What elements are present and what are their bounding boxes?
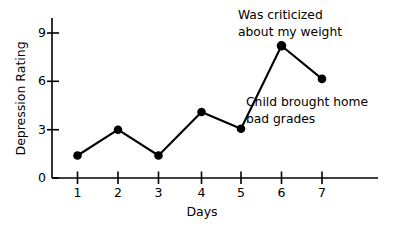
x-tick-label-3: 3 [149, 187, 169, 200]
annotation-was-criticized: Was criticized about my weight [238, 7, 342, 41]
x-tick-label-4: 4 [192, 187, 212, 200]
x-tick-label-6: 6 [272, 187, 292, 200]
annotation-bad-grades: Child brought home bad grades [246, 94, 368, 128]
data-point-day-6 [277, 41, 287, 51]
y-tick-label-3: 3 [30, 124, 46, 137]
data-point-day-5 [237, 125, 246, 134]
y-tick-label-0: 0 [30, 172, 46, 185]
x-tick-label-5: 5 [231, 187, 251, 200]
annotation-was-criticized-line-2: about my weight [238, 24, 342, 41]
annotation-bad-grades-line-1: Child brought home [246, 94, 368, 111]
x-tick-label-7: 7 [312, 187, 332, 200]
data-point-day-7 [318, 75, 327, 84]
depression-rating-line-chart: 0 3 6 9 1 2 3 4 5 6 7 Days Depression Ra… [0, 0, 405, 230]
data-point-day-2 [114, 125, 123, 134]
annotation-bad-grades-line-2: bad grades [246, 111, 368, 128]
data-point-day-4 [197, 108, 206, 117]
x-tick-label-2: 2 [108, 187, 128, 200]
y-tick-label-6: 6 [30, 75, 46, 88]
y-axis-title: Depression Rating [13, 56, 28, 156]
data-point-day-1 [73, 151, 82, 160]
data-point-day-3 [154, 151, 163, 160]
annotation-was-criticized-line-1: Was criticized [238, 7, 342, 24]
x-axis-title: Days [172, 204, 232, 219]
x-tick-label-1: 1 [68, 187, 88, 200]
y-tick-label-9: 9 [30, 27, 46, 40]
